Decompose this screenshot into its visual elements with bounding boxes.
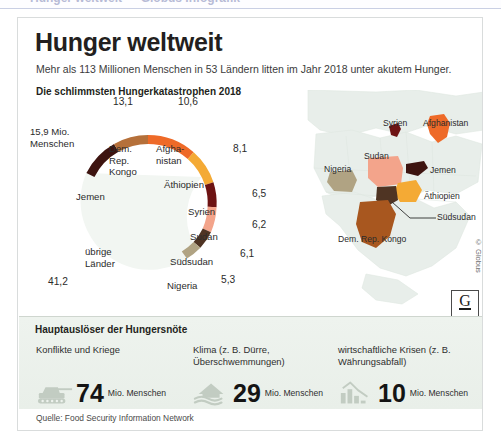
donut-label-aethiopien: Äthiopien [164, 179, 204, 191]
cause-caption-conflict: Konflikte und Kriege [36, 344, 186, 356]
page-subtitle: Mehr als 113 Millionen Menschen in 53 Lä… [36, 63, 451, 75]
map-label-dr-kongo: Dem. Rep. Kongo [338, 234, 406, 244]
causes-heading: Hauptauslöser der Hungersnöte [35, 324, 187, 335]
donut-label-syrien: Syrien [188, 206, 215, 218]
donut-segment-syrien [205, 182, 217, 207]
map-label-afghanistan: Afghanistan [423, 118, 468, 128]
donut-label-nigeria: Nigeria [167, 280, 197, 292]
map-country-aethiopien [394, 180, 422, 202]
top-banner-strip: Hunger weltweit — Globus Infografik [0, 0, 501, 9]
cause-value-economic: 10 [378, 380, 406, 406]
source-note: Quelle: Food Security Information Networ… [36, 413, 194, 423]
map-label-jemen: Jemen [430, 165, 456, 175]
donut-value-aethiopien: 8,1 [233, 143, 247, 154]
globus-logo-bar [459, 308, 471, 310]
cause-caption-climate: Klima (z. B. Dürre, Überschwemmungen) [193, 344, 343, 368]
map-label-sudan: Sudan [364, 151, 389, 161]
hunger-donut-chart: 13,1 10,6 8,1 6,5 6,2 6,1 5,3 41,2 15,9 … [18, 96, 298, 306]
donut-value-syrien: 6,5 [252, 188, 266, 199]
donut-label-sudan: Sudan [190, 231, 218, 243]
cause-item-conflict: Konflikte und Kriege 74 Mio. Menschen [36, 344, 186, 356]
donut-value-jemen: 15,9 Mio. Menschen [30, 126, 74, 149]
tank-icon [36, 380, 74, 406]
map-label-aethiopien: Äthiopien [424, 191, 460, 201]
cause-unit-conflict: Mio. Menschen [108, 388, 166, 399]
globus-logo-letter: G [452, 292, 478, 309]
donut-value-suedsudan: 6,1 [240, 248, 254, 259]
donut-label-uebrige: übrige Länder [85, 246, 115, 269]
map-label-syrien: Syrien [383, 118, 407, 128]
cause-caption-economic: wirtschaftliche Krisen (z. B. Währungsab… [338, 344, 483, 368]
cause-item-economic: wirtschaftliche Krisen (z. B. Währungsab… [338, 344, 483, 368]
cause-item-climate: Klima (z. B. Dürre, Überschwemmungen) 29… [193, 344, 343, 368]
donut-label-suedsudan: Südsudan [170, 256, 213, 268]
page-title: Hunger weltweit [35, 28, 222, 57]
donut-value-nigeria: 5,3 [221, 274, 235, 285]
donut-label-jemen: Jemen [76, 191, 105, 203]
infographic-root: Hunger weltweit — Globus Infografik Hung… [0, 0, 501, 447]
donut-value-dr-kongo: 13,1 [113, 96, 133, 107]
map-label-nigeria: Nigeria [324, 164, 351, 174]
banner-ghost-text: Hunger weltweit — Globus Infografik [30, 0, 240, 5]
declining-chart-icon [338, 380, 376, 406]
infographic-card: Hunger weltweit Mehr als 113 Millionen M… [17, 17, 483, 431]
cause-unit-climate: Mio. Menschen [265, 388, 323, 399]
banner-rule [0, 8, 501, 9]
cause-value-climate: 29 [233, 380, 261, 406]
cause-unit-economic: Mio. Menschen [410, 388, 468, 399]
map-copyright: © Globus [474, 238, 483, 273]
flood-house-icon [193, 380, 231, 406]
region-map: Syrien Afghanistan Sudan Nigeria Jemen Ä… [306, 90, 483, 305]
cause-value-conflict: 74 [76, 380, 104, 406]
donut-value-uebrige: 41,2 [48, 276, 68, 287]
donut-label-afghanistan: Afgha- nistan [156, 143, 184, 166]
donut-value-afghanistan: 10,6 [178, 96, 198, 107]
donut-value-sudan: 6,2 [252, 219, 266, 230]
donut-label-dr-kongo: Dem. Rep. Kongo [109, 143, 137, 178]
map-label-suedsudan: Südsudan [437, 212, 476, 222]
